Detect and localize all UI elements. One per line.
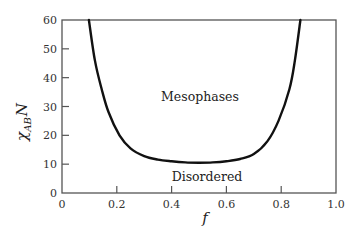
- x-axis-label: f: [201, 209, 210, 227]
- y-tick-label: 30: [43, 101, 57, 114]
- disordered-label: Disordered: [172, 169, 243, 184]
- x-axis-ticks: 00.20.40.60.81.0: [59, 186, 345, 211]
- y-tick-label: 40: [43, 72, 57, 85]
- y-axis-ticks: 0102030405060: [43, 14, 69, 200]
- x-tick-label: 0.6: [218, 198, 236, 211]
- y-tick-label: 10: [43, 158, 57, 171]
- y-tick-label: 20: [43, 129, 57, 142]
- mesophases-label: Mesophases: [161, 89, 239, 104]
- svg-text:χABN: χABN: [13, 102, 33, 142]
- x-tick-label: 0: [59, 198, 66, 211]
- y-tick-label: 50: [43, 43, 57, 56]
- phase-diagram-chart: 00.20.40.60.81.0 0102030405060 Mesophase…: [0, 0, 361, 237]
- y-tick-label: 60: [43, 14, 57, 27]
- x-tick-label: 0.4: [163, 198, 181, 211]
- x-tick-label: 0.2: [108, 198, 126, 211]
- y-axis-label: χABN: [13, 102, 33, 142]
- x-tick-label: 1.0: [327, 198, 345, 211]
- plot-border: [62, 20, 336, 193]
- y-tick-label: 0: [50, 187, 57, 200]
- y-axis-label-suffix: N: [13, 102, 31, 117]
- y-axis-label-subscript: AB: [22, 117, 33, 133]
- plot-frame: [62, 20, 336, 193]
- x-tick-label: 0.8: [272, 198, 290, 211]
